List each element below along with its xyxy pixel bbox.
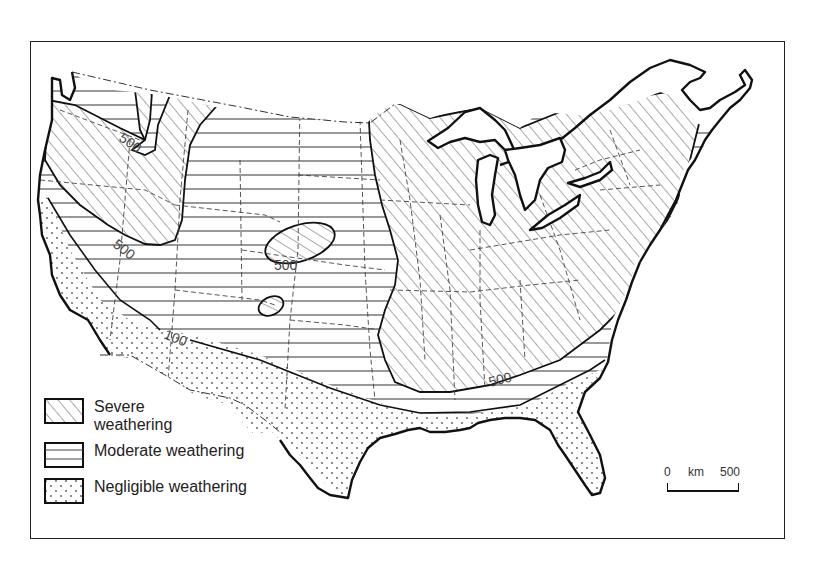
negligible-dots-swatch-icon [44, 478, 84, 504]
severe-zone-east-hatch [368, 88, 700, 392]
contour-label-central: 500 [274, 257, 298, 273]
legend-label-severe: Severe weathering [94, 398, 194, 434]
scale-unit-label: km [688, 465, 704, 479]
legend-item-moderate: Moderate weathering [44, 442, 247, 468]
scale-bar: 0 km 500 [660, 465, 750, 492]
legend-label-moderate: Moderate weathering [94, 442, 244, 460]
moderate-lines-swatch-icon [44, 442, 84, 468]
severe-hatch-swatch-icon [44, 398, 84, 424]
scale-zero-label: 0 [664, 465, 671, 479]
scale-bar-line [667, 483, 739, 492]
legend-item-negligible: Negligible weathering [44, 478, 247, 504]
legend-item-severe: Severe weathering [44, 398, 247, 434]
legend-label-negligible: Negligible weathering [94, 478, 247, 496]
map-legend: Severe weathering Moderate weathering Ne… [44, 398, 247, 512]
scale-max-label: 500 [720, 465, 740, 479]
